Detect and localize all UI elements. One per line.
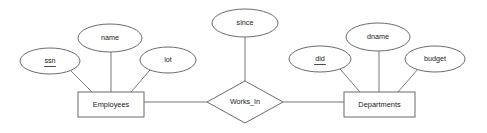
attribute-label-budget: budget (424, 54, 446, 63)
attribute-label-dname: dname (367, 32, 389, 41)
er-diagram-canvas: EmployeesDepartmentsWorks_Inssnnamelotsi… (0, 0, 487, 133)
attribute-label-did: did (315, 54, 325, 63)
attribute-label-lot: lot (164, 55, 172, 64)
er-diagram-svg: EmployeesDepartmentsWorks_Inssnnamelotsi… (0, 0, 487, 133)
relationship-label-works_in: Works_In (230, 97, 260, 106)
attribute-label-since: since (237, 18, 254, 27)
connector-lot-employees (131, 70, 150, 92)
entity-label-departments: Departments (358, 100, 401, 109)
attribute-label-ssn: ssn (44, 56, 55, 65)
attribute-label-name: name (101, 33, 119, 42)
connector-did-departments (340, 69, 360, 92)
entity-label-employees: Employees (93, 100, 130, 109)
connector-budget-departments (398, 69, 418, 92)
connector-ssn-employees (71, 71, 92, 92)
